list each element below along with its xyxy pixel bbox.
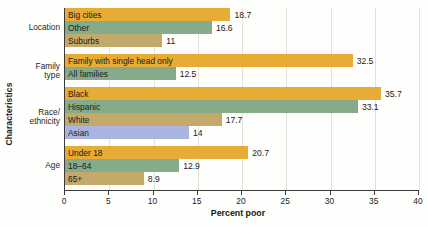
x-tick-label: 0 (49, 196, 79, 206)
bar-value-label: 12.5 (180, 67, 197, 80)
bar-label: All families (68, 67, 108, 80)
bar-value-label: 17.7 (226, 113, 243, 126)
bar-label: Big cities (68, 8, 102, 21)
x-tick (197, 190, 198, 195)
bar-row: Suburbs11 (65, 34, 428, 47)
bar-label: White (68, 113, 89, 126)
bar-row: Under 1820.7 (65, 146, 428, 159)
bar-chart: Characteristics LocationFamilytypeRace/e… (0, 0, 428, 227)
bar-row: 18–6412.9 (65, 159, 428, 172)
bar-value-label: 11 (166, 34, 175, 47)
bar-value-label: 14 (193, 126, 203, 139)
bar-label: 18–64 (68, 159, 91, 172)
bar-value-label: 32.5 (357, 54, 374, 67)
x-tick (418, 190, 419, 195)
bar-label: Hispanic (68, 100, 100, 113)
bar-label: Family with single head only (68, 54, 173, 67)
bar-row: 65+8.9 (65, 172, 428, 185)
group-label: Location (14, 23, 60, 32)
x-tick (241, 190, 242, 195)
x-tick (285, 190, 286, 195)
x-axis-title-text: Percent poor (211, 208, 265, 218)
x-tick-label: 15 (182, 196, 212, 206)
y-axis-title-text: Characteristics (4, 82, 14, 145)
x-tick (374, 190, 375, 195)
bar-value-label: 33.1 (362, 100, 379, 113)
group-label: Familytype (14, 62, 60, 80)
bar-value-label: 16.6 (216, 21, 233, 34)
bar-value-label: 8.9 (148, 172, 160, 185)
bar-label: Other (68, 21, 89, 34)
x-tick-label: 5 (93, 196, 123, 206)
bar-value-label: 12.9 (183, 159, 200, 172)
x-tick-label: 40 (403, 196, 428, 206)
x-tick-label: 35 (359, 196, 389, 206)
x-tick (330, 190, 331, 195)
x-tick-label: 30 (315, 196, 345, 206)
x-tick (64, 190, 65, 195)
bar (65, 87, 381, 100)
bar-value-label: 35.7 (385, 87, 402, 100)
group-label: Age (14, 161, 60, 170)
bar-row: Big cities18.7 (65, 8, 428, 21)
x-tick-label: 10 (138, 196, 168, 206)
bar-row: All families12.5 (65, 67, 428, 80)
bar-row: Other16.6 (65, 21, 428, 34)
x-tick-label: 25 (270, 196, 300, 206)
bar-row: Hispanic33.1 (65, 100, 428, 113)
bar-row: Black35.7 (65, 87, 428, 100)
x-axis-title: Percent poor (0, 208, 428, 218)
x-tick (108, 190, 109, 195)
bar-value-label: 18.7 (234, 8, 251, 21)
bar-row: White17.7 (65, 113, 428, 126)
bar-value-label: 20.7 (252, 146, 269, 159)
group-label: Race/ethnicity (14, 108, 60, 126)
bar-label: Asian (68, 126, 89, 139)
plot-area: Big cities18.7Other16.6Suburbs11Family w… (64, 8, 419, 190)
bar-label: Black (68, 87, 88, 100)
bar-label: 65+ (68, 172, 82, 185)
bar-row: Family with single head only32.5 (65, 54, 428, 67)
group-label-column: LocationFamilytypeRace/ethnicityAge (16, 8, 63, 190)
bar (65, 100, 358, 113)
bar-row: Asian14 (65, 126, 428, 139)
bar-label: Suburbs (68, 34, 99, 47)
bar-label: Under 18 (68, 146, 102, 159)
x-tick (153, 190, 154, 195)
x-tick-label: 20 (226, 196, 256, 206)
